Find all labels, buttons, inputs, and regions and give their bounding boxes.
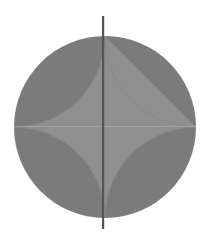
vertical-axis-line xyxy=(102,16,104,229)
geometry-diagram xyxy=(0,0,212,242)
